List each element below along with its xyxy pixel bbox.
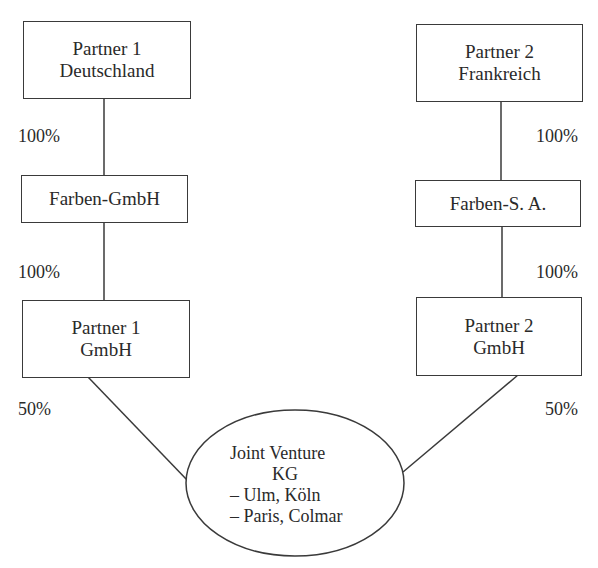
partner1-deutschland-line1: Partner 1	[72, 38, 141, 60]
partner2-gmbh-line2: GmbH	[473, 337, 525, 359]
share-left-jv: 50%	[18, 399, 51, 419]
farben-gmbh-box: Farben-GmbH	[21, 175, 188, 223]
farben-gmbh-label: Farben-GmbH	[49, 188, 160, 210]
partner1-gmbh-line1: Partner 1	[71, 317, 140, 339]
joint-venture-text: Joint Venture KG – Ulm, Köln – Paris, Co…	[230, 443, 343, 527]
partner1-gmbh-box: Partner 1 GmbH	[22, 300, 190, 378]
partner2-gmbh-box: Partner 2 GmbH	[416, 297, 582, 376]
jv-line2: KG	[230, 464, 343, 485]
partner2-gmbh-line1: Partner 2	[464, 315, 533, 337]
share-left-top: 100%	[18, 126, 60, 146]
partner1-deutschland-line2: Deutschland	[60, 60, 155, 82]
share-right-top: 100%	[536, 126, 578, 146]
partner1-deutschland-box: Partner 1 Deutschland	[23, 21, 191, 99]
farben-sa-label: Farben-S. A.	[450, 193, 547, 215]
jv-line1: Joint Venture	[230, 443, 343, 464]
partner1-gmbh-line2: GmbH	[80, 339, 132, 361]
jv-line3: – Ulm, Köln	[230, 485, 343, 506]
share-right-middle: 100%	[536, 262, 578, 282]
jv-line4: – Paris, Colmar	[230, 506, 343, 527]
partner2-frankreich-box: Partner 2 Frankreich	[416, 24, 583, 102]
share-right-jv: 50%	[545, 399, 578, 419]
farben-sa-box: Farben-S. A.	[415, 180, 581, 227]
partner2-frankreich-line2: Frankreich	[458, 63, 540, 85]
partner2-frankreich-line1: Partner 2	[465, 41, 534, 63]
share-left-middle: 100%	[18, 262, 60, 282]
